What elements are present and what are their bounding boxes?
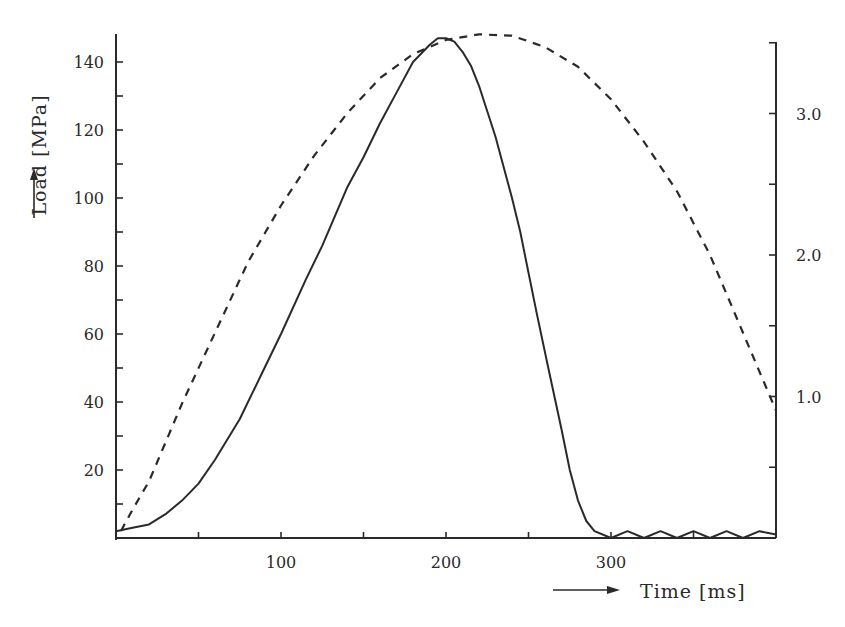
x-tick-label: 100: [266, 553, 297, 572]
y2-tick-label: 1.0: [796, 388, 821, 407]
dashed-series-line: [121, 34, 776, 531]
x-tick-label: 200: [431, 553, 462, 572]
y-axis-title: Load [MPa]: [28, 94, 50, 215]
load-time-chart: 204060801001201401002003001.02.03.0 Load…: [0, 0, 845, 627]
y-tick-label: 120: [73, 121, 104, 140]
x-axis-title: Time [ms]: [640, 580, 746, 602]
y2-tick-label: 2.0: [796, 246, 821, 265]
y-tick-label: 80: [84, 257, 104, 276]
axis-labels: Load [MPa] Time [ms]: [28, 94, 746, 602]
x-axis-arrow-icon: [553, 586, 620, 594]
y2-tick-label: 3.0: [796, 105, 821, 124]
load-series-line: [116, 38, 776, 538]
data-series: [116, 34, 776, 538]
y-tick-label: 20: [84, 461, 104, 480]
x-tick-label: 300: [596, 553, 627, 572]
y-tick-label: 140: [73, 53, 104, 72]
y-tick-label: 40: [84, 393, 104, 412]
y-tick-label: 60: [84, 325, 104, 344]
axes: 204060801001201401002003001.02.03.0: [73, 34, 821, 572]
y-tick-label: 100: [73, 189, 104, 208]
